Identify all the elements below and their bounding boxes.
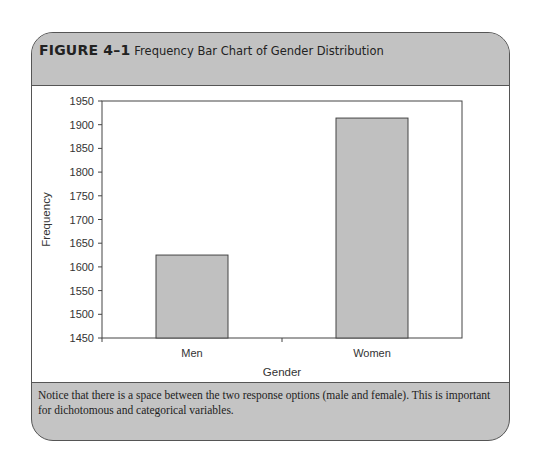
bar-women [336, 118, 408, 338]
y-tick-label: 1900 [70, 119, 94, 131]
x-axis-label: Gender [263, 366, 302, 378]
y-tick-label: 1600 [70, 261, 94, 273]
x-tick-label: Women [353, 347, 391, 359]
figure-label: FIGURE 4–1 [39, 42, 130, 58]
y-tick-label: 1950 [70, 95, 94, 107]
y-tick-label: 1500 [70, 308, 94, 320]
figure-title: FIGURE 4–1Frequency Bar Chart of Gender … [39, 42, 384, 58]
y-tick-label: 1450 [70, 332, 94, 344]
bar-men [156, 255, 228, 338]
figure-caption: Notice that there is a space between the… [38, 388, 503, 418]
x-tick-label: Men [181, 347, 202, 359]
figure-frame: FIGURE 4–1Frequency Bar Chart of Gender … [31, 32, 510, 441]
chart-panel: 1450150015501600165017001750180018501900… [32, 85, 509, 383]
y-tick-label: 1750 [70, 190, 94, 202]
y-tick-label: 1700 [70, 214, 94, 226]
y-tick-label: 1850 [70, 142, 94, 154]
y-tick-label: 1800 [70, 166, 94, 178]
figure-title-text: Frequency Bar Chart of Gender Distributi… [134, 44, 384, 58]
figure-header: FIGURE 4–1Frequency Bar Chart of Gender … [32, 33, 509, 85]
y-tick-label: 1650 [70, 237, 94, 249]
y-tick-label: 1550 [70, 285, 94, 297]
bar-chart: 1450150015501600165017001750180018501900… [32, 86, 509, 382]
y-axis-label: Frequency [40, 192, 52, 247]
